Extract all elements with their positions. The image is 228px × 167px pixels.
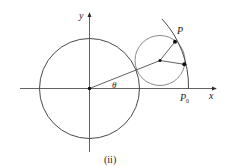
rolling-circle-diagram: y x θ P P0 (ii) [0, 0, 228, 167]
point-p [173, 40, 177, 44]
x-axis-label: x [208, 90, 214, 101]
y-axis-label: y [78, 10, 84, 21]
theta-label: θ [112, 80, 117, 90]
origin-to-center-line [90, 61, 161, 89]
p0-label: P0 [179, 92, 189, 104]
small-center-point [158, 59, 161, 62]
origin-point [88, 87, 92, 91]
center-to-p-line [160, 42, 175, 61]
contact-point [182, 62, 186, 66]
center-to-contact-line [160, 61, 184, 65]
p-label: P [176, 25, 183, 36]
figure-caption: (ii) [104, 154, 116, 166]
